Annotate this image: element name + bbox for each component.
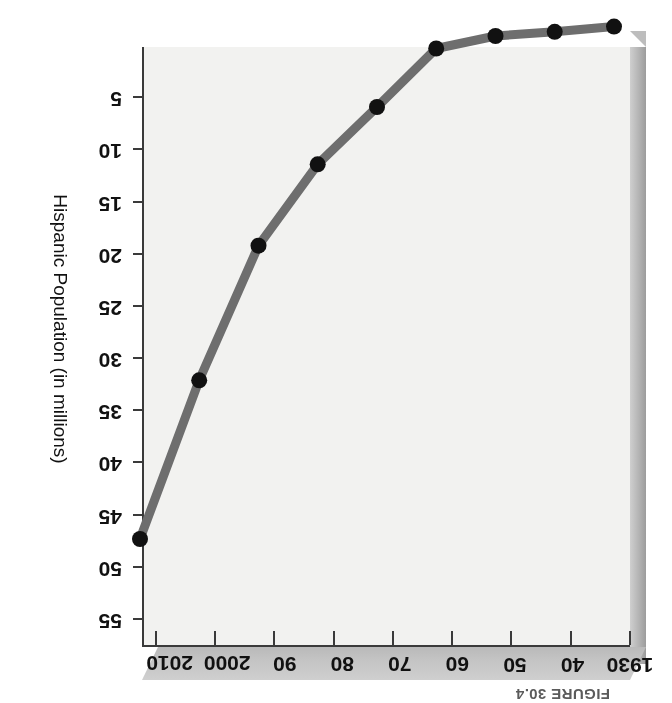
x-axis-tick (333, 631, 335, 645)
data-point (191, 372, 207, 388)
y-axis-label: 20 (99, 244, 122, 268)
x-axis-tick (511, 631, 513, 645)
y-axis-tick (133, 461, 144, 463)
y-axis-label: 35 (99, 400, 122, 424)
figure-caption: FIGURE 30.4 (516, 686, 610, 703)
x-axis-label: 1930 (607, 653, 654, 677)
x-axis-tick (155, 631, 157, 645)
y-axis-tick (133, 566, 144, 568)
data-point (132, 531, 148, 547)
x-axis-label: 90 (273, 652, 296, 676)
y-axis-label: 30 (99, 348, 122, 372)
x-axis-label: 70 (388, 652, 411, 676)
y-axis-tick (133, 201, 144, 203)
x-axis-tick (629, 631, 631, 645)
chart-bottom-left-joint (630, 31, 646, 47)
y-axis-label: 50 (99, 557, 122, 581)
x-axis-label: 40 (561, 653, 584, 677)
y-axis-tick (133, 253, 144, 255)
y-axis-label: 25 (99, 296, 122, 320)
x-axis-tick (570, 631, 572, 645)
x-axis-label: 50 (503, 653, 526, 677)
y-axis-tick (133, 305, 144, 307)
data-point (606, 19, 622, 35)
x-axis-tick (392, 631, 394, 645)
x-axis-label: 60 (446, 652, 469, 676)
x-axis-label: 80 (331, 652, 354, 676)
y-axis-label: 45 (99, 505, 122, 529)
line-series-svg (126, 12, 614, 612)
data-point (488, 28, 504, 44)
x-axis-tick (274, 631, 276, 645)
y-axis-tick (133, 514, 144, 516)
chart-left-depth-face (630, 47, 646, 664)
y-axis-tick (133, 409, 144, 411)
x-axis-tick (451, 631, 453, 645)
y-axis-title: Hispanic Population (in millions) (49, 194, 71, 463)
data-point (251, 238, 267, 254)
y-axis-tick (133, 96, 144, 98)
data-point (547, 24, 563, 40)
x-axis-label: 2010 (146, 651, 193, 675)
y-axis-tick (133, 148, 144, 150)
y-axis-label: 55 (99, 609, 122, 633)
y-axis-tick (133, 618, 144, 620)
y-axis-label: 10 (99, 139, 122, 163)
data-point (428, 41, 444, 57)
data-point (310, 156, 326, 172)
y-axis-label: 40 (99, 452, 122, 476)
x-axis-tick (214, 631, 216, 645)
data-point-markers (132, 19, 622, 547)
chart-3d-body: Hispanic Population (in millions) 193040… (126, 25, 646, 680)
y-axis-tick (133, 357, 144, 359)
x-axis-label: 2000 (204, 651, 251, 675)
y-axis-label: 5 (110, 87, 122, 111)
data-point (369, 99, 385, 115)
y-axis-label: 15 (99, 192, 122, 216)
plot-area (142, 47, 630, 647)
scanned-figure: the immigrants who came to the United St… (0, 0, 672, 703)
